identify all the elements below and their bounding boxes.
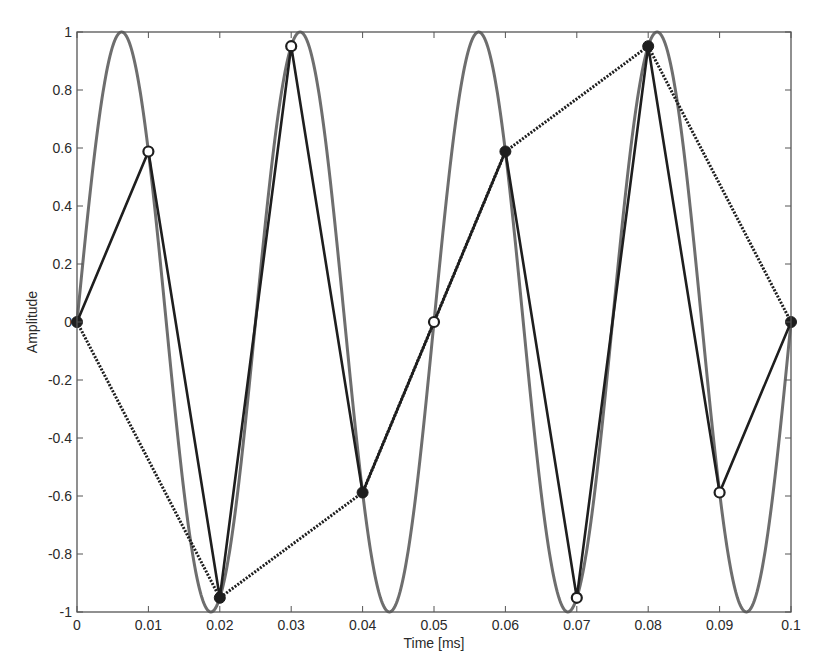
filled-circle-marker bbox=[357, 487, 368, 498]
x-tick-label: 0.1 bbox=[781, 617, 801, 633]
y-tick-label: -0.2 bbox=[48, 372, 72, 388]
y-tick-label: -0.4 bbox=[48, 430, 72, 446]
y-tick-label: 0.2 bbox=[53, 256, 73, 272]
open-circle-marker bbox=[286, 41, 296, 51]
chart-background bbox=[0, 0, 823, 672]
filled-circle-marker bbox=[643, 41, 654, 52]
open-circle-marker bbox=[143, 146, 153, 156]
x-tick-label: 0 bbox=[73, 617, 81, 633]
x-tick-label: 0.04 bbox=[349, 617, 376, 633]
x-tick-label: 0.09 bbox=[706, 617, 733, 633]
y-tick-label: -0.6 bbox=[48, 488, 72, 504]
x-axis-label: Time [ms] bbox=[404, 635, 465, 651]
x-tick-label: 0.02 bbox=[206, 617, 233, 633]
y-axis-label: Amplitude bbox=[24, 291, 40, 353]
y-tick-label: 0.6 bbox=[53, 140, 73, 156]
x-tick-label: 0.03 bbox=[278, 617, 305, 633]
x-tick-label: 0.01 bbox=[135, 617, 162, 633]
y-tick-label: 1 bbox=[64, 24, 72, 40]
y-tick-label: -0.8 bbox=[48, 546, 72, 562]
open-circle-marker bbox=[715, 488, 725, 498]
x-tick-label: 0.06 bbox=[492, 617, 519, 633]
x-tick-label: 0.07 bbox=[563, 617, 590, 633]
x-tick-label: 0.05 bbox=[420, 617, 447, 633]
open-circle-marker bbox=[572, 593, 582, 603]
y-tick-label: 0.8 bbox=[53, 82, 73, 98]
y-tick-label: 0.4 bbox=[53, 198, 73, 214]
x-tick-label: 0.08 bbox=[635, 617, 662, 633]
chart: 00.010.020.030.040.050.060.070.080.090.1… bbox=[0, 0, 823, 672]
filled-circle-marker bbox=[500, 146, 511, 157]
open-circle-marker bbox=[429, 317, 439, 327]
y-tick-label: -1 bbox=[60, 604, 73, 620]
filled-circle-marker bbox=[214, 592, 225, 603]
y-tick-label: 0 bbox=[64, 314, 72, 330]
